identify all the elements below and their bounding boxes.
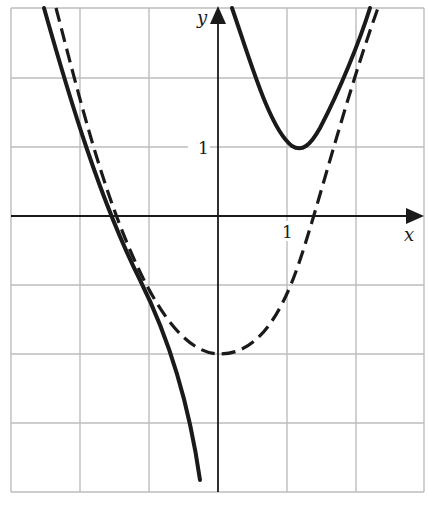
function-graph: 1 1 y x bbox=[0, 0, 428, 507]
plot-canvas: 1 1 y x bbox=[0, 0, 428, 507]
dashed-curve bbox=[56, 8, 378, 354]
x-axis-label: x bbox=[404, 224, 414, 245]
y-axis-label: y bbox=[196, 7, 208, 28]
x-tick-label: 1 bbox=[282, 222, 293, 242]
x-axis-arrow-icon bbox=[406, 208, 424, 224]
y-tick-label: 1 bbox=[198, 138, 209, 158]
solid-curve-left bbox=[44, 8, 200, 480]
